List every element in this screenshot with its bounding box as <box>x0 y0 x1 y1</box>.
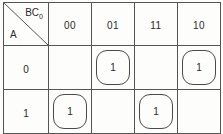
row-header-label: 1 <box>23 108 29 119</box>
cell-content <box>135 46 177 89</box>
cell-content <box>49 46 91 89</box>
column-variable-subscript: 0 <box>39 13 43 20</box>
cell-value: 1 <box>67 107 73 117</box>
kmap-cell-r1-c1[interactable] <box>92 90 135 134</box>
kmap-cell-r1-c2[interactable]: 1 <box>135 90 178 134</box>
column-header-label: 00 <box>64 20 76 31</box>
column-header-row: BC0 A 00 01 11 10 <box>4 3 221 46</box>
column-variable-name: BC <box>25 7 39 18</box>
kmap-cell-r1-c3[interactable] <box>178 90 221 134</box>
karnaugh-map-table: BC0 A 00 01 11 10 0 <box>3 2 221 134</box>
column-header-01: 01 <box>92 3 135 46</box>
cell-content <box>92 90 134 133</box>
kmap-cell-r0-c0[interactable] <box>49 46 92 90</box>
karnaugh-map-figure: BC0 A 00 01 11 10 0 <box>0 0 223 134</box>
column-variable-label: BC0 <box>25 8 43 20</box>
cell-content: 1 <box>92 46 134 89</box>
kmap-row-1: 1 1 1 <box>4 90 221 134</box>
cell-content: 1 <box>135 90 177 133</box>
kmap-cell-r1-c0[interactable]: 1 <box>49 90 92 134</box>
cell-value: 1 <box>196 63 202 73</box>
kmap-row-0: 0 1 <box>4 46 221 90</box>
column-header-label: 11 <box>150 20 161 31</box>
cell-value: 1 <box>110 63 116 73</box>
column-header-10: 10 <box>178 3 221 46</box>
row-variable-label: A <box>10 30 17 40</box>
cell-value: 1 <box>153 107 159 117</box>
row-header-1: 1 <box>4 90 49 134</box>
cell-content <box>178 90 220 133</box>
cell-content: 1 <box>178 46 220 89</box>
kmap-cell-r0-c1[interactable]: 1 <box>92 46 135 90</box>
column-header-11: 11 <box>135 3 178 46</box>
row-header-0: 0 <box>4 46 49 90</box>
column-header-00: 00 <box>49 3 92 46</box>
cell-content: 1 <box>49 90 91 133</box>
kmap-cell-r0-c3[interactable]: 1 <box>178 46 221 90</box>
column-header-label: 01 <box>107 20 119 31</box>
row-header-label: 0 <box>23 64 29 75</box>
kmap-cell-r0-c2[interactable] <box>135 46 178 90</box>
column-header-label: 10 <box>193 20 205 31</box>
axis-label-corner-cell: BC0 A <box>4 3 49 46</box>
